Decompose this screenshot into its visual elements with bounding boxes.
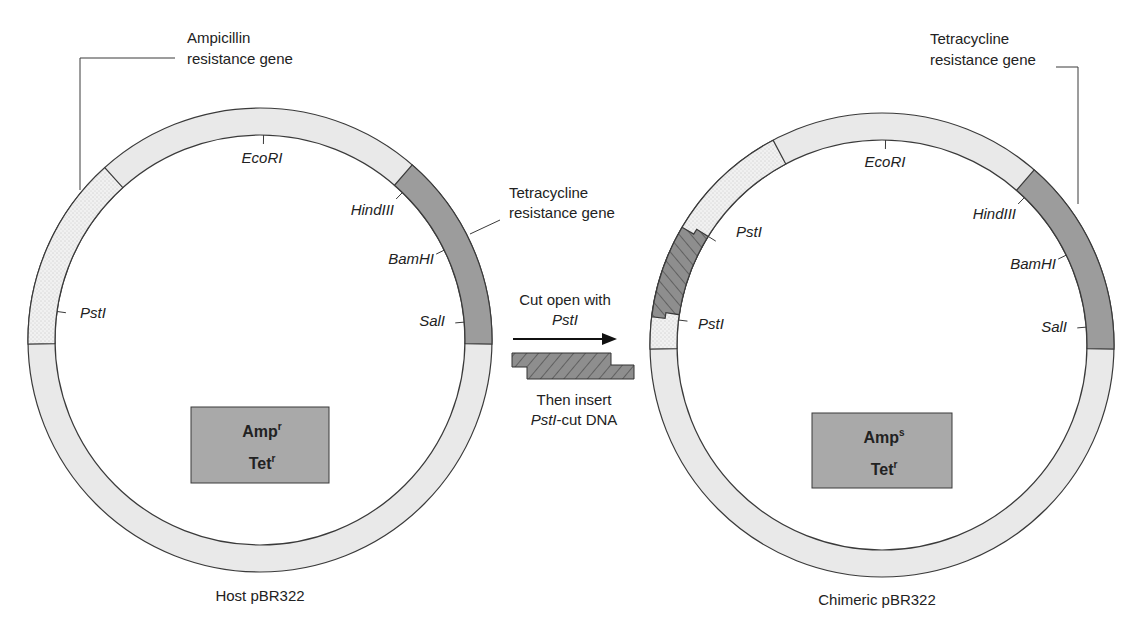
chimeric-amp-phenotype: Amps xyxy=(863,427,905,446)
arrow-right-icon xyxy=(602,333,617,345)
chimeric-tet-gene-label-line2: resistance gene xyxy=(930,51,1036,68)
tet-gene-label-line1: Tetracycline xyxy=(509,184,588,201)
site-tick-psti xyxy=(57,311,66,312)
host-plasmid-ring xyxy=(28,108,492,572)
host-plasmid: EcoRIHindIIIBamHISalIPstI Ampicillin res… xyxy=(28,29,615,604)
site-label-sali: SalI xyxy=(419,312,445,329)
site-label-hindiii: HindIII xyxy=(351,201,394,218)
insert-step-line1: Then insert xyxy=(536,391,612,408)
chimeric-tet-phenotype: Tetr xyxy=(871,459,898,478)
tet-gene-label-line2: resistance gene xyxy=(509,204,615,221)
site-tick-sali xyxy=(1077,327,1086,328)
site-tick-hindiii xyxy=(396,193,402,199)
chimeric-plasmid-ring xyxy=(650,113,1114,577)
tet-gene-leader-line xyxy=(470,220,500,234)
cut-step-enzyme: PstI xyxy=(552,311,578,328)
site-tick-hindiii xyxy=(1018,198,1024,204)
site-tick-psti xyxy=(679,320,688,321)
site-label-psti: PstI xyxy=(80,304,106,321)
chimeric-plasmid-caption: Chimeric pBR322 xyxy=(818,591,936,608)
site-label-hindiii: HindIII xyxy=(973,205,1016,222)
amp-gene-label-line2: resistance gene xyxy=(187,50,293,67)
site-label-sali: SalI xyxy=(1041,318,1067,335)
chimeric-tet-gene-leader-line xyxy=(1056,67,1078,204)
chimeric-tet-gene-label-line1: Tetracycline xyxy=(930,30,1009,47)
site-label-psti: PstI xyxy=(698,315,724,332)
host-plasmid-caption: Host pBR322 xyxy=(215,587,304,604)
site-label-psti: PstI xyxy=(736,223,762,240)
plasmid-diagram: EcoRIHindIIIBamHISalIPstI Ampicillin res… xyxy=(0,0,1138,632)
site-tick-bamhi xyxy=(1058,255,1066,259)
chimeric-plasmid: EcoRIHindIIIBamHISalIPstIPstI Tetracycli… xyxy=(650,30,1114,608)
site-tick-sali xyxy=(455,322,464,323)
site-label-ecori: EcoRI xyxy=(865,153,906,170)
inserted-pstI-dna xyxy=(652,227,708,318)
site-label-bamhi: BamHI xyxy=(1010,255,1056,272)
site-tick-psti xyxy=(708,236,716,241)
host-tet-phenotype: Tetr xyxy=(249,453,276,472)
site-label-ecori: EcoRI xyxy=(242,149,283,166)
cut-step-line1: Cut open with xyxy=(519,291,611,308)
pstI-cut-dna-fragment xyxy=(512,353,634,379)
amp-gene-label-line1: Ampicillin xyxy=(187,29,250,46)
insert-step-line2: PstI-cut DNA xyxy=(531,411,618,428)
cloning-step: Cut open with PstI Then insert PstI-cut … xyxy=(512,291,634,428)
ampicillin-resistance-gene xyxy=(28,168,123,344)
site-tick-bamhi xyxy=(436,250,444,254)
host-amp-phenotype: Ampr xyxy=(242,421,282,440)
site-label-bamhi: BamHI xyxy=(388,250,434,267)
